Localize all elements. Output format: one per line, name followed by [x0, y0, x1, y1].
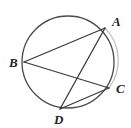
- chord-B-A: [24, 28, 105, 62]
- vertex-label-d: D: [54, 113, 63, 126]
- chord-C-D: [60, 88, 109, 109]
- vertex-label-b: B: [9, 56, 18, 69]
- chord-B-C: [24, 62, 109, 88]
- vertex-label-a: A: [112, 15, 121, 28]
- vertex-label-c: C: [116, 82, 125, 95]
- geometry-figure: A B C D: [0, 0, 131, 128]
